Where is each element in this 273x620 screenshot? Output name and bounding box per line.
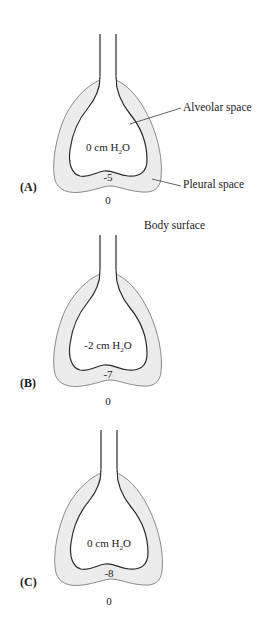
body-surface-pressure: 0 bbox=[106, 595, 112, 607]
body-surface-label: Body surface bbox=[144, 219, 205, 232]
pleural-pressure: -7 bbox=[103, 368, 113, 380]
pleural-pressure: -8 bbox=[104, 567, 114, 579]
panel-label: (B) bbox=[20, 376, 36, 390]
panel-label: (C) bbox=[20, 575, 37, 589]
panel-label: (A) bbox=[20, 180, 37, 194]
pleural-pressure: -5 bbox=[103, 171, 113, 183]
body-surface-pressure: 0 bbox=[105, 194, 111, 206]
panel-a: Alveolar space Pleural space 0 cm H2O -5… bbox=[20, 34, 252, 206]
lung-pressure-diagram: Alveolar space Pleural space 0 cm H2O -5… bbox=[0, 0, 273, 620]
panel-c: 0 cm H2O -8 0 (C) bbox=[20, 430, 162, 607]
alveolar-space-label: Alveolar space bbox=[183, 101, 252, 114]
pleural-space-label: Pleural space bbox=[183, 178, 244, 191]
panel-b: -2 cm H2O -7 0 (B) bbox=[20, 235, 161, 407]
body-surface-pressure: 0 bbox=[105, 395, 111, 407]
